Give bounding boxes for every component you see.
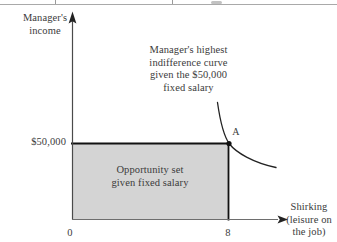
point-a-dot [226, 141, 231, 146]
y-axis-title: Manager's income [16, 12, 74, 37]
indifference-curve-label: Manager's highest indifference curve giv… [138, 44, 239, 94]
y-tick-label: $50,000 [16, 136, 66, 149]
figure-page: { "page": { "top_rule_color": "#a9a9a9" … [0, 0, 337, 242]
x-tick-label: 8 [222, 227, 234, 240]
origin-tick-label: 0 [64, 227, 76, 240]
opportunity-set-label: Opportunity set given fixed salary [95, 164, 205, 189]
point-a-label: A [230, 126, 242, 139]
x-axis-title: Shirking (leisure on the job) [282, 201, 336, 239]
